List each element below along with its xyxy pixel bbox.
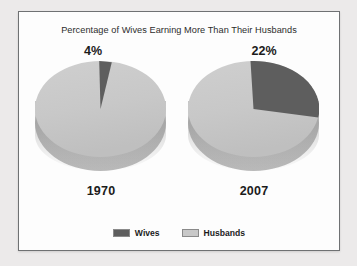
legend-item-wives: Wives — [113, 228, 160, 238]
legend-swatch-wives — [113, 229, 130, 237]
pie-chart-1970: 4% — [26, 44, 176, 214]
chart-title: Percentage of Wives Earning More Than Th… — [19, 25, 339, 35]
pie-slice-wives-2007 — [251, 61, 320, 118]
pie-value-label-2007: 22% — [189, 44, 339, 58]
pie-value-label-1970: 4% — [18, 44, 168, 58]
pie-face-1970 — [35, 61, 166, 157]
pie-face-2007 — [188, 61, 319, 157]
legend-label-wives: Wives — [135, 228, 160, 238]
legend-label-husbands: Husbands — [204, 228, 246, 238]
pie-year-label-1970: 1970 — [26, 184, 176, 198]
chart-frame: Percentage of Wives Earning More Than Th… — [18, 11, 340, 251]
pie-stage-1970 — [34, 61, 168, 173]
legend-swatch-husbands — [182, 229, 199, 237]
pie-year-label-2007: 2007 — [179, 184, 329, 198]
chart-legend: Wives Husbands — [19, 228, 339, 238]
pie-chart-2007: 22% — [179, 44, 329, 214]
legend-item-husbands: Husbands — [182, 228, 246, 238]
pie-stage-2007 — [187, 61, 321, 173]
